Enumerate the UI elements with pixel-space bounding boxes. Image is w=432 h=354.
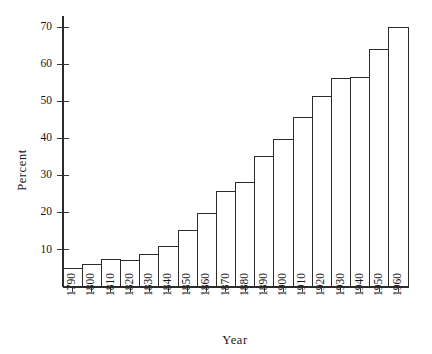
x-tick-label: 1820 (123, 273, 135, 296)
x-tick-label: 1840 (161, 273, 173, 296)
bar (255, 157, 274, 287)
x-tick-label: 1950 (372, 273, 384, 296)
y-axis-ticks-group: 10203040506070 (41, 20, 70, 255)
bar (293, 118, 312, 287)
x-tick-label: 1910 (295, 273, 307, 296)
y-tick-label: 50 (41, 94, 53, 106)
y-tick-label: 20 (41, 205, 53, 217)
x-tick-label: 1930 (334, 273, 346, 296)
bar (370, 49, 389, 287)
x-axis-title: Year (222, 333, 248, 347)
bar (389, 28, 408, 287)
x-tick-label: 1900 (276, 273, 288, 296)
x-tick-label: 1870 (219, 273, 231, 296)
bar (236, 182, 255, 287)
x-tick-label: 1850 (180, 273, 192, 296)
y-tick-label: 70 (41, 20, 53, 32)
x-tick-label: 1880 (238, 273, 250, 296)
x-tick-label: 1790 (65, 273, 77, 296)
bar (312, 97, 331, 287)
x-tick-label: 1890 (257, 273, 269, 296)
bar (331, 79, 350, 287)
bar-chart: 10203040506070 1790180018101820183018401… (0, 0, 432, 354)
bar (216, 192, 235, 287)
y-tick-label: 40 (41, 131, 53, 143)
bar (351, 77, 370, 287)
bars-group (63, 28, 408, 287)
x-tick-label: 1960 (391, 273, 403, 296)
y-tick-label: 30 (41, 168, 53, 180)
x-tick-label: 1920 (314, 273, 326, 296)
y-axis-title: Percent (15, 149, 29, 191)
x-tick-label: 1860 (199, 273, 211, 296)
x-tick-label: 1940 (353, 273, 365, 296)
x-tick-label: 1800 (84, 273, 96, 296)
x-tick-label: 1830 (142, 273, 154, 296)
y-tick-label: 10 (41, 243, 53, 255)
y-tick-label: 60 (41, 57, 53, 69)
chart-container: 10203040506070 1790180018101820183018401… (0, 0, 432, 354)
x-tick-label: 1810 (104, 273, 116, 296)
bar (274, 140, 293, 287)
